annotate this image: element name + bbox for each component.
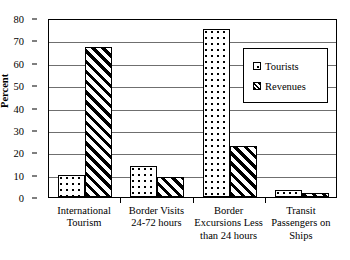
x-axis-category-label: Border Visits24-72 hours [120, 205, 192, 230]
bar-revenues-1 [157, 177, 184, 197]
plot-area [48, 19, 337, 198]
legend-label: Revenues [265, 81, 306, 92]
x-axis-tick-mark [265, 198, 266, 203]
y-axis-tick-mark [32, 153, 37, 154]
bar-tourists-1 [130, 166, 157, 197]
y-axis-title: Percent [0, 74, 10, 108]
y-axis-tick-label: 80 [14, 14, 25, 25]
bar-tourists-2 [203, 29, 230, 197]
y-axis-tick-label: 10 [14, 170, 25, 181]
y-axis-tick-mark [32, 130, 37, 131]
bar-revenues-3 [302, 193, 329, 197]
y-axis-tick-mark [32, 63, 37, 64]
legend-swatch-icon [253, 62, 261, 70]
bar-chart: 01020304050607080 Percent TouristsRevenu… [0, 0, 350, 260]
y-axis-tick-label: 0 [19, 193, 24, 204]
y-axis-tick-label: 60 [14, 58, 25, 69]
legend-swatch-icon [253, 82, 261, 90]
y-axis-tick-label: 50 [14, 81, 25, 92]
legend-item-revenues: Revenues [253, 76, 327, 96]
x-axis-category-label: TransitPassengers onShips [265, 205, 337, 242]
y-axis-tick-mark [32, 108, 37, 109]
x-axis-tick-mark [193, 198, 194, 203]
bar-revenues-0 [85, 47, 112, 197]
x-axis-category-label: BorderExcursions Lessthan 24 hours [193, 205, 265, 242]
y-axis-tick-label: 30 [14, 125, 25, 136]
bar-tourists-3 [275, 190, 302, 197]
y-axis: 01020304050607080 [0, 0, 48, 260]
legend-item-tourists: Tourists [253, 56, 327, 76]
y-axis-tick-label: 70 [14, 36, 25, 47]
y-axis-tick-mark [32, 41, 37, 42]
y-axis-tick-mark [32, 198, 37, 199]
bar-tourists-0 [58, 175, 85, 197]
x-axis-category-label: InternationalTourism [48, 205, 120, 230]
gridline [49, 42, 336, 43]
legend-label: Tourists [265, 61, 299, 72]
y-axis-tick-mark [32, 86, 37, 87]
y-axis-tick-mark [32, 19, 37, 20]
y-axis-tick-label: 40 [14, 103, 25, 114]
chart-legend: TouristsRevenues [243, 48, 328, 103]
y-axis-tick-mark [32, 175, 37, 176]
x-axis-tick-mark [120, 198, 121, 203]
y-axis-tick-label: 20 [14, 148, 25, 159]
bar-revenues-2 [230, 146, 257, 197]
